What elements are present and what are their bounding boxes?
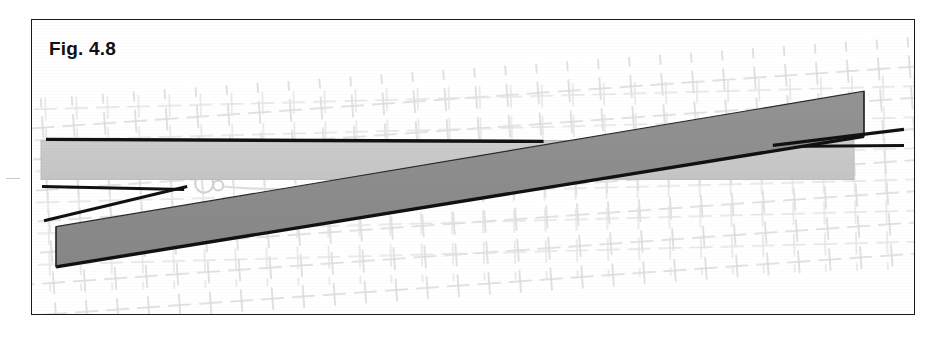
figure-page: Fig. 4.8 — [0, 0, 934, 339]
page-edge-tick — [6, 178, 20, 179]
figure-label: Fig. 4.8 — [49, 38, 116, 60]
top-edge-black-line — [46, 139, 544, 141]
figure-illustration — [32, 20, 914, 314]
figure-frame: Fig. 4.8 — [31, 19, 915, 315]
